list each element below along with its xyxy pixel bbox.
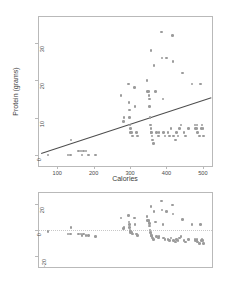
data-point xyxy=(172,135,175,138)
data-point xyxy=(177,135,180,138)
residual-panel: -20020 xyxy=(0,182,227,285)
data-point xyxy=(136,135,139,138)
data-point xyxy=(178,127,181,130)
data-point xyxy=(94,235,97,238)
data-point xyxy=(128,116,131,119)
data-point xyxy=(165,210,168,213)
residual-y-axis-tick-label: -20 xyxy=(41,259,47,267)
data-point xyxy=(129,124,132,127)
data-point xyxy=(150,127,153,130)
residual-y-axis-tick-label: 0 xyxy=(36,233,42,236)
residual-plot-area xyxy=(39,193,212,267)
data-point xyxy=(161,57,164,60)
data-point xyxy=(162,98,165,101)
data-point xyxy=(174,139,177,142)
data-point xyxy=(162,131,165,134)
data-point xyxy=(69,154,72,157)
x-axis-tick-label: 200 xyxy=(89,170,98,176)
data-point xyxy=(167,131,170,134)
data-point xyxy=(123,116,126,119)
y-axis-title: Protein (grams) xyxy=(12,60,19,124)
data-point xyxy=(201,124,204,127)
data-point xyxy=(195,127,198,130)
residual-y-axis-tick-label: 20 xyxy=(39,207,45,213)
data-point xyxy=(172,60,175,63)
residual-y-axis-tick xyxy=(35,256,39,257)
data-point xyxy=(181,218,184,221)
residual-y-axis-tick xyxy=(35,204,39,205)
data-point xyxy=(87,154,90,157)
data-point xyxy=(168,239,171,242)
data-point xyxy=(151,135,154,138)
data-point xyxy=(148,98,151,101)
data-point xyxy=(198,242,201,245)
data-point xyxy=(149,116,152,119)
data-point xyxy=(162,223,165,226)
data-point xyxy=(122,120,125,123)
data-point xyxy=(146,215,149,218)
data-point xyxy=(120,217,123,220)
y-axis-tick-label: 10 xyxy=(39,121,45,127)
data-point xyxy=(148,105,151,108)
data-point xyxy=(158,131,161,134)
zero-reference-line xyxy=(39,230,212,231)
data-point xyxy=(160,31,163,34)
data-point xyxy=(181,72,184,75)
data-point xyxy=(148,225,151,228)
data-point xyxy=(191,223,194,226)
data-point xyxy=(199,223,202,226)
data-point xyxy=(81,154,84,157)
figure-canvas: 100200300400500 0102030 Calories Protein… xyxy=(0,0,227,285)
data-point xyxy=(149,124,152,127)
data-point xyxy=(135,131,138,134)
data-point xyxy=(183,131,186,134)
data-point xyxy=(171,34,174,37)
data-point xyxy=(69,233,72,236)
x-axis-tick-label: 100 xyxy=(53,170,62,176)
data-point xyxy=(196,131,199,134)
data-point xyxy=(85,150,88,153)
data-point xyxy=(146,79,149,82)
data-point xyxy=(175,131,178,134)
data-point xyxy=(147,90,150,93)
data-point xyxy=(131,135,134,138)
residual-y-axis-tick xyxy=(35,230,39,231)
data-point xyxy=(94,154,97,157)
data-point xyxy=(184,135,187,138)
data-point xyxy=(152,238,155,241)
data-point xyxy=(191,83,194,86)
data-point xyxy=(85,234,88,237)
data-point xyxy=(133,86,136,89)
data-point xyxy=(153,64,156,67)
y-axis-tick xyxy=(35,155,39,156)
data-point xyxy=(154,221,157,224)
data-point xyxy=(160,200,163,203)
scatter-panel: 100200300400500 0102030 Calories Protein… xyxy=(0,0,227,182)
data-point xyxy=(70,226,73,229)
data-point xyxy=(154,90,157,93)
data-point xyxy=(133,217,136,220)
data-point xyxy=(128,101,131,104)
data-point xyxy=(129,127,132,130)
x-axis-title: Calories xyxy=(112,175,138,182)
data-point xyxy=(198,135,201,138)
data-point xyxy=(152,142,155,145)
data-point xyxy=(157,135,160,138)
data-point xyxy=(165,57,168,60)
data-point xyxy=(196,124,199,127)
data-point xyxy=(202,127,205,130)
scatter-plot-area xyxy=(39,17,212,166)
x-axis-tick xyxy=(203,166,204,169)
x-axis-tick-label: 500 xyxy=(198,170,207,176)
y-axis-tick-label: 0 xyxy=(36,158,42,161)
data-point xyxy=(120,94,123,97)
data-point xyxy=(199,83,202,86)
data-point xyxy=(148,94,151,97)
y-axis-tick xyxy=(35,43,39,44)
data-point xyxy=(127,83,130,86)
data-point xyxy=(202,135,205,138)
data-point xyxy=(184,241,187,244)
data-point xyxy=(87,234,90,237)
data-point xyxy=(134,105,137,108)
data-point xyxy=(180,124,183,127)
